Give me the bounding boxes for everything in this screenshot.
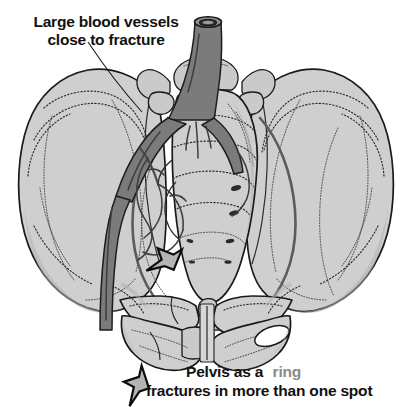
sacral-foramen [189, 260, 195, 263]
sacral-foramen [224, 260, 231, 264]
bottom-label-highlight-ring: ring [273, 363, 301, 380]
right-iliac-wing [246, 69, 394, 313]
top-label-line1: Large blood vessels [33, 13, 178, 30]
bottom-label-line2: fractures in more than one spot [146, 382, 372, 399]
left-ischium-pubis [120, 296, 206, 370]
bottom-label-line1: Pelvis as a ring [186, 363, 301, 380]
pelvis-fracture-illustration: Large blood vessels close to fracture Pe… [0, 0, 412, 407]
right-ischium-pubis [209, 296, 292, 370]
pubic-symphysis [200, 304, 214, 362]
top-label-line2: close to fracture [47, 31, 165, 48]
top-label: Large blood vessels close to fracture [33, 13, 178, 48]
illustration-canvas: Large blood vessels close to fracture Pe… [0, 0, 412, 407]
bottom-label-line1-part1: Pelvis as a [186, 363, 264, 380]
